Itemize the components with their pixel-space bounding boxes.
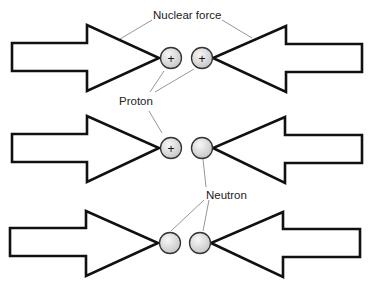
plus-sign: + [167, 52, 174, 66]
leader-proton-row1-left [150, 71, 164, 92]
label-nuclear-force: Nuclear force [153, 9, 221, 21]
label-proton: Proton [119, 95, 153, 107]
label-neutron: Neutron [206, 189, 247, 201]
row-proton-neutron: + [12, 116, 362, 183]
neutron-particle [190, 233, 211, 254]
leader-proton-row1-right [155, 69, 194, 92]
proton-particle: + [192, 48, 213, 69]
arrow-right-pointing [12, 25, 159, 91]
leader-nuclear-force-right [222, 20, 252, 38]
plus-sign: + [167, 142, 174, 156]
arrow-left-pointing [213, 26, 362, 92]
proton-particle: + [161, 138, 182, 159]
neutron-particle [160, 233, 181, 254]
row-proton-proton: + + [12, 25, 362, 92]
leader-neutron-row3-right [203, 200, 209, 231]
arrow-left-pointing [211, 212, 360, 277]
neutron-particle [192, 138, 213, 159]
nuclear-force-diagram: + + + Nuclear force Proton Neutron [0, 0, 373, 288]
leader-proton-row2 [149, 111, 162, 133]
leader-neutron-row2 [203, 159, 206, 187]
proton-particle: + [161, 48, 182, 69]
arrow-right-pointing [12, 116, 159, 182]
leader-neutron-row3-left [171, 200, 204, 231]
plus-sign: + [198, 52, 205, 66]
arrow-right-pointing [10, 211, 158, 276]
arrow-left-pointing [213, 117, 362, 183]
leader-nuclear-force-left [120, 20, 152, 39]
row-neutron-neutron [10, 211, 360, 277]
